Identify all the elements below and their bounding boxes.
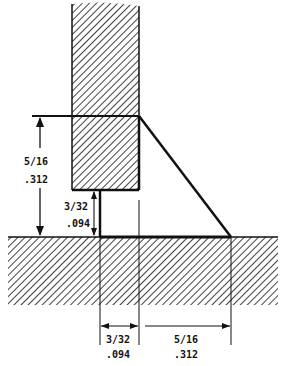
horizontal-leg-fraction: 5/16 [174, 334, 198, 345]
dimension-root-gap-horizontal: 3/32 .094 [101, 323, 138, 360]
arrow-up-icon [91, 191, 97, 199]
upper-plate [72, 2, 139, 190]
arrow-left-icon [101, 323, 109, 329]
root-gap-horizontal-fraction: 3/32 [106, 334, 130, 345]
weld-diagram: 5/16 .312 3/32 .094 3/32 .094 5/16 .312 [0, 0, 283, 366]
horizontal-leg-decimal: .312 [174, 349, 198, 360]
dimension-root-gap-vertical: 3/32 .094 [64, 191, 97, 236]
arrow-down-icon [36, 226, 44, 236]
root-gap-vertical-decimal: .094 [66, 218, 90, 229]
root-gap-horizontal-decimal: .094 [106, 349, 130, 360]
vertical-leg-decimal: .312 [24, 174, 48, 185]
dimension-vertical-leg: 5/16 .312 [24, 117, 48, 236]
base-plate [8, 237, 278, 305]
vertical-leg-fraction: 5/16 [24, 156, 48, 167]
arrow-up-icon [36, 117, 44, 127]
arrow-down-icon [91, 228, 97, 236]
dimension-horizontal-leg: 5/16 .312 [145, 323, 230, 360]
arrow-right-icon [222, 323, 230, 329]
arrow-right-icon [130, 323, 138, 329]
root-gap-vertical-fraction: 3/32 [64, 201, 88, 212]
